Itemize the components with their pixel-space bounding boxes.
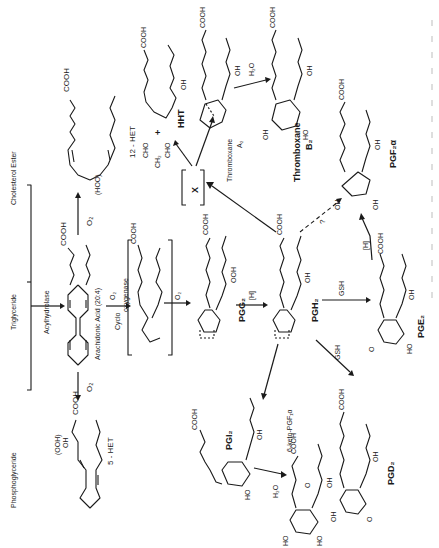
pge2-structure: COOH OH O HO PGE₂ — [368, 233, 426, 354]
svg-text:OH: OH — [408, 290, 415, 301]
arachidonic-acid-cascade-diagram: Phosphoglyceride Triglyceride Cholestero… — [0, 0, 439, 548]
pgd2-label: PGD₂ — [386, 461, 396, 485]
pgh2-to-pgi2 — [261, 344, 278, 400]
pgg2-structure: COOH OOH PGG₂ — [198, 214, 247, 338]
svg-text:O₂: O₂ — [174, 292, 181, 300]
12-het-label: 12 - HET — [128, 126, 137, 158]
svg-text:O: O — [368, 346, 375, 352]
12-het-structure: COOH (HOO) 12 - HET — [62, 68, 137, 195]
arachidonic-acid-structure: COOH Arachidonic Acid (20:4) — [59, 222, 102, 365]
pgi2-to-6keto: H₂O — [254, 468, 287, 498]
svg-text:COOH: COOH — [377, 233, 384, 254]
source-phosphoglyceride: Phosphoglyceride — [10, 452, 18, 508]
pgg2-label: PGG₂ — [237, 298, 247, 322]
svg-text:HO: HO — [316, 535, 323, 546]
svg-text:GSH: GSH — [338, 281, 345, 296]
5-het-label: 5 - HET — [106, 437, 115, 465]
thromboxane-b2-structure: COOH OH OH HO Thromboxane B₂ — [262, 7, 314, 182]
svg-text:OH: OH — [262, 130, 269, 141]
svg-text:HO: HO — [282, 535, 289, 546]
pgi2-structure: COOH OH HO PGI₂ — [191, 398, 263, 500]
svg-text:COOH: COOH — [338, 389, 345, 410]
pge2-to-pgf2a: [H] — [359, 213, 372, 260]
svg-text:OH: OH — [234, 66, 241, 77]
intermediate-x: X — [190, 187, 200, 193]
enzyme-cyclo: Cyclo — [114, 312, 122, 330]
svg-text:+: + — [153, 130, 163, 135]
6-keto-pgf1a-structure: COOH O OH HO HO 6-keto-PGF₁α — [282, 409, 333, 546]
sources-bracket — [27, 185, 31, 390]
source-triglyceride: Triglyceride — [10, 294, 18, 330]
svg-text:COOH: COOH — [191, 409, 198, 430]
pgh2-structure: COOH OH PGH₂ — [273, 214, 320, 338]
svg-text:B₂: B₂ — [304, 140, 314, 151]
svg-text:OH: OH — [180, 80, 187, 91]
svg-text:[H]: [H] — [362, 241, 370, 250]
svg-text:COOH: COOH — [269, 7, 276, 28]
12het-hoo: (HOO) — [94, 174, 102, 195]
svg-text:OH: OH — [372, 452, 379, 463]
lipoxygenase-12-path: O₂ — [75, 192, 94, 235]
hht-mda: CHO CH₂ CHO + COOH OH HHT — [140, 27, 187, 168]
svg-text:COOH: COOH — [130, 223, 137, 244]
o2-label-5het: O₂ — [85, 383, 94, 392]
thromboxane-a2-label: Thromboxane — [226, 139, 233, 182]
thromboxane-a2-structure: COOH OH Thromboxane A₂ — [199, 7, 243, 182]
source-cholesterol-ester: Cholesterol Ester — [10, 151, 17, 205]
svg-text:COOH: COOH — [140, 27, 147, 48]
enzyme-oxygenase: oxygenase — [122, 278, 130, 312]
thromboxane-b2-label: Thromboxane — [292, 122, 302, 182]
pgf2a-structure: COOH OH OH OH PGF₂α — [334, 79, 398, 210]
pgh2-to-pgd2: GSH — [316, 340, 354, 376]
o2-label-12het: O₂ — [85, 217, 94, 226]
svg-text:?: ? — [318, 219, 327, 224]
svg-text:OH: OH — [372, 200, 379, 211]
pgi2-label: PGI₂ — [224, 430, 234, 450]
svg-text:COOH: COOH — [276, 214, 283, 235]
svg-text:CHO: CHO — [142, 142, 149, 158]
svg-text:OOH: OOH — [230, 267, 237, 283]
pgd2-structure: COOH OH OH O PGD₂ — [330, 389, 396, 522]
pgf2a-label: PGF₂α — [388, 140, 398, 169]
aa-cooh: COOH — [59, 222, 68, 246]
cyclooxygenase-step: Cyclo oxygenase O₂ COOH O₂ — [106, 223, 191, 355]
pgh2-to-x: X — [173, 116, 276, 232]
6-keto-pgf1a-label: 6-keto-PGF₁α — [286, 409, 293, 452]
pge2-label: PGE₂ — [416, 315, 426, 338]
svg-text:OH: OH — [326, 478, 333, 489]
5-het-structure: COOH (OOH) OH 5 - HET — [54, 391, 115, 508]
svg-text:OH: OH — [306, 66, 313, 77]
svg-text:A₂: A₂ — [236, 140, 243, 148]
pgh2-to-pge2: GSH — [322, 281, 371, 303]
svg-text:HO: HO — [244, 489, 251, 500]
svg-text:CH₂: CH₂ — [154, 155, 161, 168]
svg-text:OH: OH — [330, 512, 337, 523]
hht-label: HHT — [176, 109, 186, 128]
pgh2-label: PGH₂ — [310, 298, 320, 322]
5het-ooh: (OOH) — [54, 434, 62, 455]
arachidonic-acid-label: Arachidonic Acid (20:4) — [94, 288, 102, 360]
svg-text:COOH: COOH — [202, 214, 209, 235]
svg-text:COOH: COOH — [199, 7, 206, 28]
svg-text:CHO: CHO — [164, 142, 171, 158]
svg-text:O₂: O₂ — [109, 292, 116, 300]
svg-text:OH: OH — [334, 200, 341, 211]
svg-text:COOH: COOH — [338, 79, 345, 100]
svg-text:HO: HO — [406, 343, 413, 354]
svg-text:O: O — [366, 516, 373, 522]
svg-text:OH: OH — [256, 430, 263, 441]
svg-text:H₂O: H₂O — [272, 484, 279, 498]
5het-cooh: COOH — [71, 391, 80, 415]
svg-text:H₂O: H₂O — [248, 62, 255, 76]
svg-text:GSH: GSH — [334, 345, 341, 360]
5het-oh: OH — [62, 438, 69, 449]
12het-cooh: COOH — [62, 68, 71, 92]
svg-text:OH: OH — [304, 273, 311, 284]
svg-text:OH: OH — [374, 140, 381, 151]
svg-text:HO: HO — [302, 129, 309, 140]
svg-text:[H]: [H] — [248, 291, 256, 300]
enzyme-acylhydrolase: Acylhydrolase — [43, 290, 51, 334]
svg-text:O: O — [304, 482, 311, 488]
